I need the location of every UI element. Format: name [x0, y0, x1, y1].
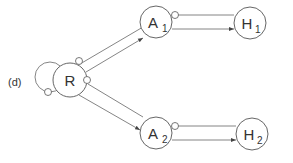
node-a2-sub: 2: [162, 134, 168, 145]
node-h2: H 2: [236, 118, 268, 150]
panel-label: (d): [8, 76, 21, 88]
node-h1-label: H: [242, 15, 253, 32]
node-h1-sub: 1: [255, 24, 261, 35]
node-a2: A 2: [140, 117, 172, 149]
edge-r-a2: [79, 84, 143, 130]
node-a1-sub: 1: [162, 23, 168, 34]
node-h2-label: H: [244, 126, 255, 143]
node-h1: H 1: [234, 7, 266, 39]
edge-r-a1: [80, 27, 143, 72]
network-diagram: (d) R A 1 H 1 A 2: [0, 0, 293, 163]
inhibitor-a2-r-icon: [84, 77, 91, 84]
node-h2-sub: 2: [257, 135, 263, 146]
node-r-label: R: [65, 72, 76, 89]
inhibitor-h1-a1-icon: [172, 12, 179, 19]
node-a2-label: A: [148, 125, 158, 142]
node-a1-label: A: [148, 14, 158, 31]
inhibitor-self-loop-icon: [45, 89, 52, 96]
node-a1: A 1: [140, 6, 172, 38]
inhibitor-a1-r-icon: [76, 58, 83, 65]
edge-a2-h2: [172, 126, 236, 140]
inhibitor-h2-a2-icon: [172, 123, 179, 130]
edge-a1-h1: [172, 15, 234, 29]
node-r: R: [53, 63, 87, 97]
